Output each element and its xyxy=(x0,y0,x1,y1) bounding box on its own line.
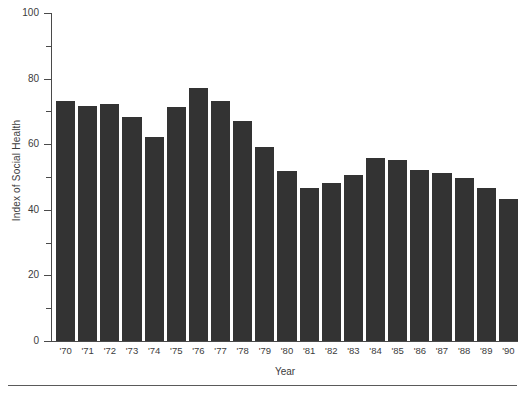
y-axis-tick-minor xyxy=(46,111,51,112)
x-axis-tick-label: '80 xyxy=(277,345,296,356)
bar xyxy=(189,88,208,342)
x-axis-tick-label: '90 xyxy=(499,345,518,356)
bar-series xyxy=(52,13,518,342)
x-axis-tick-label: '70 xyxy=(56,345,75,356)
x-axis-tick-label: '85 xyxy=(388,345,407,356)
bar xyxy=(410,170,429,342)
plot-area xyxy=(52,13,518,342)
bar xyxy=(78,106,97,342)
y-axis-tick-label: 100 xyxy=(9,8,39,18)
bar xyxy=(344,175,363,342)
y-axis-title: Index of Social Health xyxy=(6,0,28,341)
x-axis-tick-label: '81 xyxy=(300,345,319,356)
x-axis-tick-label: '84 xyxy=(366,345,385,356)
bar xyxy=(145,137,164,342)
chart-figure: Index of Social Health 020406080100 '70'… xyxy=(0,0,525,393)
footer-divider xyxy=(8,385,517,386)
bar xyxy=(477,188,496,342)
y-axis-tick-minor xyxy=(46,46,51,47)
x-axis-tick-label: '73 xyxy=(122,345,141,356)
y-axis-tick-label: 20 xyxy=(9,270,39,280)
y-axis-tick-minor xyxy=(46,308,51,309)
x-axis-tick-label: '75 xyxy=(167,345,186,356)
x-axis-tick-label: '71 xyxy=(78,345,97,356)
x-axis-tick-label: '78 xyxy=(233,345,252,356)
bar xyxy=(300,188,319,342)
bar xyxy=(211,101,230,342)
x-axis-tick-label: '74 xyxy=(145,345,164,356)
x-axis-tick-labels: '70'71'72'73'74'75'76'77'78'79'80'81'82'… xyxy=(52,345,518,356)
bar xyxy=(322,183,341,342)
bar xyxy=(499,199,518,342)
x-axis-tick-label: '86 xyxy=(410,345,429,356)
x-axis-tick-label: '79 xyxy=(255,345,274,356)
bar xyxy=(455,178,474,342)
bar xyxy=(233,121,252,342)
bar xyxy=(277,171,296,342)
y-axis-tick-label: 40 xyxy=(9,205,39,215)
x-axis-line xyxy=(51,341,518,342)
y-axis-tick-label: 80 xyxy=(9,74,39,84)
x-axis-tick-label: '83 xyxy=(344,345,363,356)
x-axis-tick-label: '72 xyxy=(100,345,119,356)
x-axis-tick-label: '77 xyxy=(211,345,230,356)
y-axis-tick-label: 60 xyxy=(9,139,39,149)
x-axis-tick-label: '87 xyxy=(432,345,451,356)
bar xyxy=(432,173,451,342)
y-axis-tick-minor xyxy=(46,243,51,244)
y-axis-tick-major xyxy=(44,144,51,145)
y-axis-tick-major xyxy=(44,13,51,14)
y-axis-tick-major xyxy=(44,210,51,211)
bar xyxy=(167,107,186,342)
bar xyxy=(366,158,385,342)
bar xyxy=(56,101,75,342)
y-axis-tick-major xyxy=(44,275,51,276)
y-axis-tick-label: 0 xyxy=(9,336,39,346)
y-axis-tick-major xyxy=(44,79,51,80)
bar xyxy=(100,104,119,342)
x-axis-tick-label: '88 xyxy=(455,345,474,356)
x-axis-title: Year xyxy=(52,366,518,377)
bar xyxy=(122,117,141,342)
bar xyxy=(388,160,407,342)
x-axis-tick-label: '76 xyxy=(189,345,208,356)
y-axis-tick-minor xyxy=(46,177,51,178)
x-axis-tick-label: '89 xyxy=(477,345,496,356)
bar xyxy=(255,147,274,342)
y-axis-tick-major xyxy=(44,341,51,342)
x-axis-tick-label: '82 xyxy=(322,345,341,356)
